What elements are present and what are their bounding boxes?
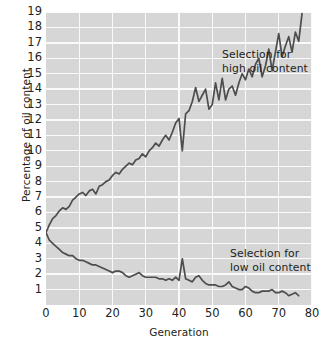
y-tick-label: 3 — [2, 253, 42, 265]
y-tick-label: 14 — [2, 83, 42, 95]
y-tick-label: 11 — [2, 129, 42, 141]
y-tick-label: 1 — [2, 284, 42, 296]
y-tick-label: 19 — [2, 6, 42, 18]
x-tick-label: 0 — [31, 308, 61, 320]
y-tick-label: 6 — [2, 206, 42, 218]
y-axis-tick-labels: 12345678910111213141516171819 — [0, 12, 42, 305]
x-axis-title: Generation — [46, 326, 312, 338]
x-tick-label: 40 — [164, 308, 194, 320]
annotation-low-oil-content: Selection for low oil content — [230, 247, 311, 275]
y-tick-label: 8 — [2, 176, 42, 188]
x-tick-label: 60 — [231, 308, 261, 320]
y-tick-label: 7 — [2, 191, 42, 203]
x-tick-label: 80 — [297, 308, 324, 320]
y-tick-label: 15 — [2, 68, 42, 80]
line-high-oil-content — [46, 14, 302, 233]
y-tick-label: 5 — [2, 222, 42, 234]
oil-content-selection-chart: Percentage of oil content 12345678910111… — [0, 0, 324, 342]
x-tick-label: 30 — [131, 308, 161, 320]
y-tick-label: 9 — [2, 160, 42, 172]
y-tick-label: 13 — [2, 99, 42, 111]
x-tick-label: 20 — [98, 308, 128, 320]
y-tick-label: 10 — [2, 145, 42, 157]
annotation-high-oil-content: Selection for high oil content — [222, 48, 308, 76]
y-tick-label: 2 — [2, 268, 42, 280]
y-tick-label: 18 — [2, 21, 42, 33]
x-tick-label: 10 — [64, 308, 94, 320]
y-tick-label: 16 — [2, 52, 42, 64]
x-tick-label: 50 — [197, 308, 227, 320]
x-axis-tick-labels: 01020304050607080 — [46, 308, 324, 324]
y-tick-label: 12 — [2, 114, 42, 126]
y-tick-label: 4 — [2, 237, 42, 249]
y-tick-label: 17 — [2, 37, 42, 49]
x-tick-label: 70 — [264, 308, 294, 320]
plot-area: Selection for high oil content Selection… — [46, 12, 312, 305]
